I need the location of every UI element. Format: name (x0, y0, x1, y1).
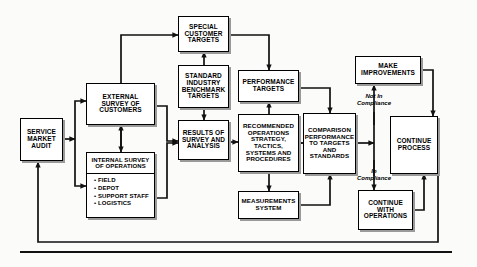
wire-trunk-to-external-survey (75, 101, 86, 139)
node-performance-targets[interactable]: PERFORMANCE TARGETS (238, 70, 299, 102)
node-measurements-system[interactable]: MEASUREMENTS SYSTEM (238, 191, 299, 219)
wire-trunk-to-internal-survey (75, 139, 86, 186)
bottom-divider-rule (20, 251, 452, 253)
wire-internal-survey-to-results (155, 143, 178, 198)
node-make-improvements[interactable]: MAKE IMPROVEMENTS (355, 56, 421, 84)
node-comparison-performance-to-targets[interactable]: COMPARISON PERFORMANCE TO TARGETS AND ST… (303, 113, 356, 174)
node-standard-industry-benchmark-targets[interactable]: STANDARD INDUSTRY BENCHMARK TARGETS (178, 65, 229, 108)
label-in-compliance: In Compliance (344, 168, 404, 182)
node-recommended-operations-strategy[interactable]: RECOMMENDED OPERATIONS STRATEGY, TACTICS… (238, 114, 299, 172)
flowchart-canvas: SERVICE MARKET AUDIT EXTERNAL SURVEY OF … (0, 0, 477, 267)
wire-external-survey-to-results (155, 106, 178, 141)
node-external-survey-of-customers[interactable]: EXTERNAL SURVEY OF CUSTOMERS (86, 83, 155, 125)
wire-performance-targets-to-comparison (299, 88, 330, 113)
label-not-in-compliance: Not In Compliance (344, 93, 404, 107)
node-continue-process[interactable]: CONTINUE PROCESS (390, 116, 438, 174)
node-results-of-survey-and-analysis[interactable]: RESULTS OF SURVEY AND ANALYSIS (178, 120, 229, 160)
wire-make-improvements-to-continue-process (421, 70, 433, 116)
internal-survey-header: INTERNAL SURVEY OF OPERATIONS (87, 153, 154, 174)
wire-continue-operations-to-continue-process (413, 174, 424, 210)
wire-external-survey-to-special-targets (121, 35, 178, 83)
wire-measurements-to-comparison (299, 174, 330, 205)
node-service-market-audit[interactable]: SERVICE MARKET AUDIT (20, 118, 63, 161)
wire-special-targets-to-performance-targets (229, 35, 269, 70)
node-continue-with-operations[interactable]: CONTINUE WITH OPERATIONS (358, 190, 413, 230)
node-special-customer-targets[interactable]: SPECIAL CUSTOMER TARGETS (178, 16, 229, 52)
internal-survey-list: • FIELD • DEPOT • SUPPORT STAFF • LOGIST… (87, 174, 154, 211)
node-internal-survey-of-operations[interactable]: INTERNAL SURVEY OF OPERATIONS • FIELD • … (86, 152, 155, 218)
